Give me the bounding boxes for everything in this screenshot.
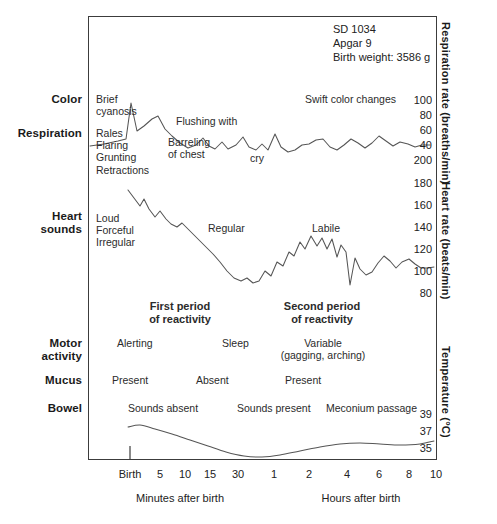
heart-rate-trace	[128, 190, 434, 285]
annotation-barreling-of-chest: Barreling of chest	[168, 136, 210, 160]
xtick-6hr: 6	[367, 468, 391, 480]
xtick-30min: 30	[226, 468, 250, 480]
apgar-score: Apgar 9	[333, 36, 430, 50]
annotation-sleep: Sleep	[222, 337, 249, 349]
xtick-4hr: 4	[335, 468, 359, 480]
annotation-loud-forceful-irregular: Loud Forceful Irregular	[96, 212, 135, 249]
annotation-bowel-sounds-absent: Sounds absent	[128, 402, 198, 414]
temperature-tick-37: 37	[402, 425, 432, 437]
annotation-labile: Labile	[312, 222, 340, 234]
chart-traces	[88, 16, 437, 460]
temperature-tick-39: 39	[402, 408, 432, 420]
xtick-1hr: 1	[262, 468, 286, 480]
birth-weight: Birth weight: 3586 g	[333, 50, 430, 64]
annotation-second-period-of-reactivity: Second period of reactivity	[258, 300, 386, 326]
row-label-motor-activity: Motor activity	[4, 337, 82, 362]
xtick-10min: 10	[173, 468, 197, 480]
row-label-heart-sounds: Heart sounds	[4, 210, 82, 235]
row-label-color: Color	[4, 93, 82, 106]
patient-info-block: SD 1034 Apgar 9 Birth weight: 3586 g	[333, 22, 430, 65]
annotation-swift-color-changes: Swift color changes	[305, 93, 396, 105]
respiration-tick-60: 60	[402, 124, 432, 136]
x-caption-hours: Hours after birth	[296, 492, 426, 504]
xtick-10hr: 10	[424, 468, 448, 480]
heart-tick-180: 180	[402, 177, 432, 189]
heart-tick-140: 140	[402, 221, 432, 233]
heart-tick-100: 100	[402, 265, 432, 277]
axis-title-respiration-rate: Respiration rate (breaths/min)	[440, 22, 452, 184]
newborn-transition-chart: SD 1034 Apgar 9 Birth weight: 3586 g Col…	[0, 0, 497, 524]
annotation-mucus-present-first: Present	[112, 374, 148, 386]
annotation-brief-cyanosis: Brief cyanosis	[96, 93, 137, 117]
temperature-trace	[128, 425, 434, 457]
row-label-bowel: Bowel	[4, 402, 82, 415]
heart-tick-160: 160	[402, 199, 432, 211]
xtick-8hr: 8	[397, 468, 421, 480]
temperature-tick-35: 35	[402, 442, 432, 454]
xtick-15min: 15	[198, 468, 222, 480]
xtick-2hr: 2	[297, 468, 321, 480]
x-caption-minutes: Minutes after birth	[110, 492, 250, 504]
annotation-rales-flaring-grunting-retractions: Rales Flaring Grunting Retractions	[96, 127, 149, 176]
axis-title-temperature: Temperature (°C)	[440, 346, 452, 438]
patient-id: SD 1034	[333, 22, 430, 36]
row-label-respiration: Respiration	[4, 127, 82, 140]
heart-tick-80: 80	[402, 287, 432, 299]
xtick-5min: 5	[148, 468, 172, 480]
heart-tick-200: 200	[402, 154, 432, 166]
axis-title-heart-rate: Heart rate (beats/min)	[440, 182, 452, 300]
row-label-mucus: Mucus	[4, 374, 82, 387]
annotation-mucus-present-second: Present	[285, 374, 321, 386]
annotation-variable-gagging-arching: Variable (gagging, arching)	[268, 337, 378, 361]
respiration-tick-100: 100	[402, 94, 432, 106]
annotation-alerting: Alerting	[117, 337, 153, 349]
flushing-line-1: Flushing with	[176, 115, 264, 127]
respiration-tick-80: 80	[402, 109, 432, 121]
heart-tick-120: 120	[402, 243, 432, 255]
respiration-tick-40: 40	[402, 139, 432, 151]
annotation-mucus-absent: Absent	[196, 374, 229, 386]
xtick-birth: Birth	[110, 468, 150, 480]
annotation-regular: Regular	[208, 222, 245, 234]
annotation-first-period-of-reactivity: First period of reactivity	[120, 300, 240, 326]
annotation-bowel-sounds-present: Sounds present	[237, 402, 311, 414]
